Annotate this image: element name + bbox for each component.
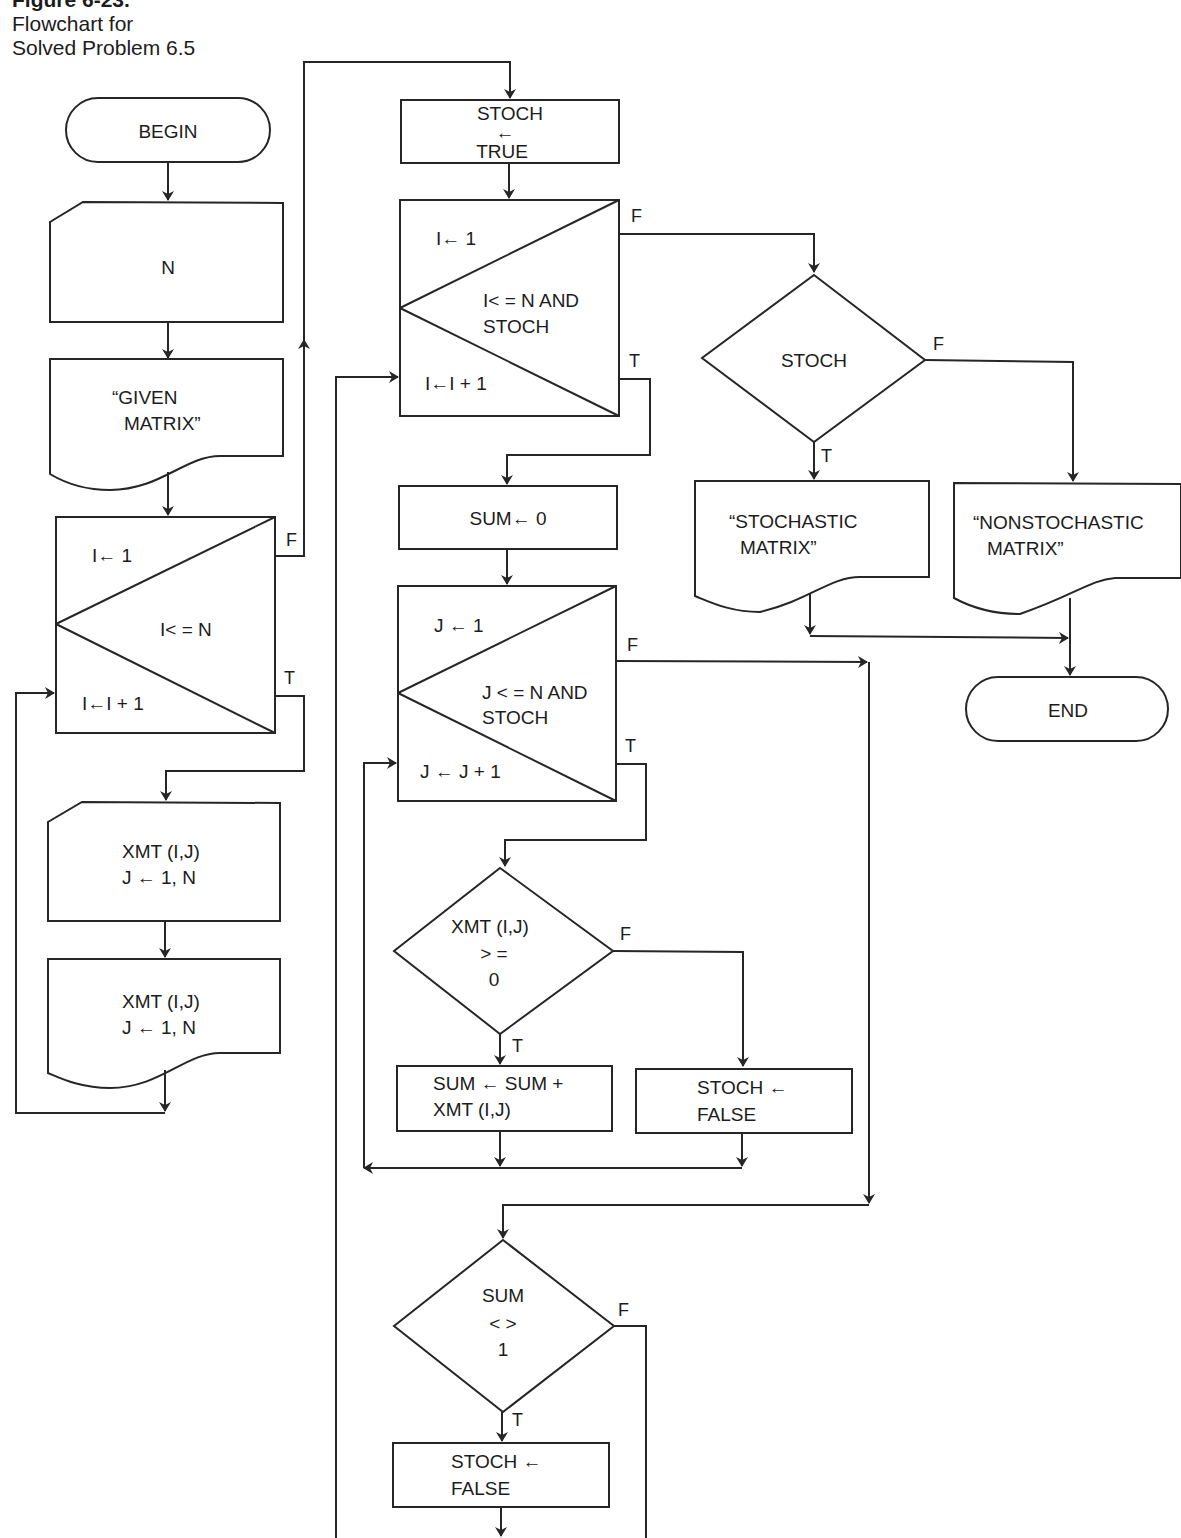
print-nonstoch-line-1: “NONSTOCHASTIC — [973, 512, 1144, 533]
stoch-true-process: STOCH ← TRUE — [401, 100, 619, 163]
connector-dec-sum-false — [614, 1326, 646, 1538]
read-xmt-card: XMT (I,J) J ← 1, N — [48, 802, 280, 921]
sum-not-one-decision: SUM < > 1 — [394, 1240, 614, 1412]
print-xmt-document: XMT (I,J) J ← 1, N — [48, 959, 280, 1088]
stoch-true-line-3: TRUE — [476, 141, 528, 162]
dec-stoch-false-label: F — [933, 334, 944, 354]
begin-label: BEGIN — [138, 121, 197, 142]
stoch-true-line-1: STOCH — [477, 103, 543, 124]
print-given-line-2: MATRIX” — [124, 413, 201, 434]
stoch-false-process-b: STOCH ← FALSE — [393, 1443, 609, 1507]
loop-i2-increment: I←I + 1 — [425, 373, 487, 394]
end-terminal: END — [966, 677, 1168, 741]
loop-i2-init: I← 1 — [436, 228, 476, 249]
connector-dec-xmt-false — [613, 951, 743, 1066]
dec-xmt-line-1: XMT (I,J) — [451, 916, 529, 937]
input-n-card: N — [50, 202, 283, 322]
print-xmt-line-1: XMT (I,J) — [122, 991, 200, 1012]
print-stochastic-document: “STOCHASTIC MATRIX” — [695, 481, 929, 612]
stoch-false-process-a: STOCH ← FALSE — [636, 1069, 852, 1133]
print-xmt-line-2: J ← 1, N — [122, 1017, 196, 1038]
read-xmt-line-2: J ← 1, N — [122, 867, 196, 888]
flowchart-canvas: BEGIN N “GIVEN MATRIX” I← 1 I< = N I←I +… — [0, 0, 1181, 1538]
dec-xmt-false-label: F — [620, 924, 631, 944]
connector-to-sum-decision — [503, 1205, 869, 1238]
sum-add-line-1: SUM ← SUM + — [433, 1073, 563, 1094]
sum-zero-label: SUM← 0 — [469, 508, 546, 529]
connector-loop-i2-false — [619, 234, 814, 272]
dec-xmt-line-3: 0 — [489, 969, 500, 990]
loop-j-condition-2: STOCH — [482, 707, 548, 728]
sum-add-process: SUM ← SUM + XMT (I,J) — [397, 1066, 612, 1131]
print-stoch-line-1: “STOCHASTIC — [729, 511, 857, 532]
input-n-label: N — [161, 257, 175, 278]
loop-i-condition: I< = N — [160, 619, 212, 640]
sum-add-line-2: XMT (I,J) — [433, 1099, 511, 1120]
stoch-false-b-line-1: STOCH ← — [451, 1451, 541, 1472]
stoch-false-a-line-1: STOCH ← — [697, 1077, 787, 1098]
dec-sum-line-2: < > — [489, 1313, 516, 1334]
print-given-matrix-document: “GIVEN MATRIX” — [50, 359, 283, 490]
read-xmt-line-1: XMT (I,J) — [122, 841, 200, 862]
loop-i2-true-label: T — [629, 351, 640, 371]
print-given-line-1: “GIVEN — [112, 387, 177, 408]
stoch-decision: STOCH — [702, 275, 925, 442]
begin-terminal: BEGIN — [66, 98, 270, 162]
connector-loop-j-false — [616, 661, 867, 662]
stoch-false-b-line-2: FALSE — [451, 1478, 510, 1499]
stoch-false-a-line-2: FALSE — [697, 1104, 756, 1125]
dec-sum-false-label: F — [618, 1300, 629, 1320]
loop-i-increment: I←I + 1 — [82, 693, 144, 714]
loop-j-true-label: T — [625, 736, 636, 756]
loop-j-box: J ← 1 J < = N AND STOCH J ← J + 1 — [398, 586, 616, 801]
connector-merge-right — [810, 636, 1068, 638]
connector-loop-i2-back — [336, 377, 398, 1538]
loop-i-true-label: T — [284, 668, 295, 688]
loop-j-condition-1: J < = N AND — [482, 682, 588, 703]
sum-zero-process: SUM← 0 — [399, 486, 617, 549]
loop-j-init: J ← 1 — [434, 615, 484, 636]
stoch-true-line-2: ← — [496, 122, 515, 143]
dec-sum-line-3: 1 — [498, 1339, 509, 1360]
dec-sum-line-1: SUM — [482, 1285, 524, 1306]
loop-i-false-label: F — [286, 530, 297, 550]
loop-i-box: I← 1 I< = N I←I + 1 — [56, 517, 275, 733]
end-label: END — [1048, 700, 1088, 721]
print-nonstochastic-document: “NONSTOCHASTIC MATRIX” — [954, 483, 1181, 614]
loop-i2-condition-2: STOCH — [483, 316, 549, 337]
loop-i-init: I← 1 — [92, 545, 132, 566]
dec-xmt-true-label: T — [512, 1036, 523, 1056]
loop-i2-box: I← 1 I< = N AND STOCH I←I + 1 — [400, 200, 619, 416]
dec-stoch-label: STOCH — [781, 350, 847, 371]
dec-stoch-true-label: T — [821, 446, 832, 466]
loop-j-increment: J ← J + 1 — [420, 761, 501, 782]
dec-xmt-line-2: > = — [480, 943, 507, 964]
xmt-nonnegative-decision: XMT (I,J) > = 0 — [394, 868, 613, 1034]
connector-loop-j-back — [364, 763, 396, 1168]
connector-dec-stoch-false — [925, 360, 1073, 481]
print-stoch-line-2: MATRIX” — [740, 537, 817, 558]
dec-sum-true-label: T — [512, 1410, 523, 1430]
loop-j-false-label: F — [627, 635, 638, 655]
loop-i2-false-label: F — [631, 206, 642, 226]
print-nonstoch-line-2: MATRIX” — [987, 538, 1064, 559]
loop-i2-condition-1: I< = N AND — [483, 290, 579, 311]
